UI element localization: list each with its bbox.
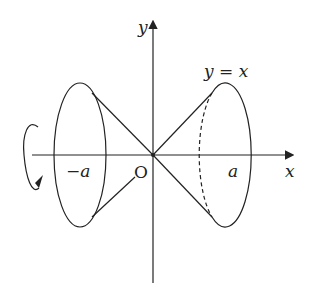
rotation-arrow-icon bbox=[24, 125, 39, 190]
double-cone-diagram: y x O y = x −a a bbox=[0, 0, 316, 294]
y-axis-label: y bbox=[137, 17, 148, 37]
curve-label: y = x bbox=[203, 61, 249, 81]
origin-point bbox=[151, 153, 155, 157]
neg-a-label: −a bbox=[66, 161, 90, 181]
pos-a-label: a bbox=[228, 161, 238, 181]
origin-label: O bbox=[134, 162, 148, 182]
x-axis-label: x bbox=[285, 161, 295, 181]
curve-y-equals-x bbox=[153, 93, 212, 155]
rotation-arrowhead-icon bbox=[35, 175, 43, 188]
right-lower-generatrix bbox=[153, 155, 212, 217]
left-upper-generatrix bbox=[92, 93, 153, 155]
left-lower-generatrix bbox=[92, 177, 135, 217]
